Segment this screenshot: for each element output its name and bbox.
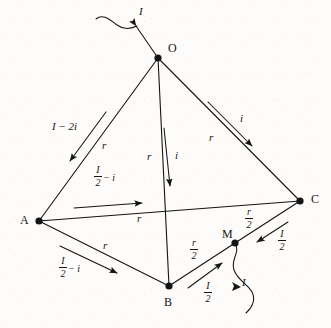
edge-MC-current-label: I 2 (278, 230, 286, 253)
node-C (296, 197, 303, 204)
node-A (35, 217, 42, 224)
fraction-denominator: 2 (191, 251, 198, 261)
node-label-B: B (164, 296, 172, 308)
edge-BM-current-label: I 2 (204, 282, 212, 305)
fraction-numerator: I (279, 229, 284, 239)
lead-out-current-label: I (242, 277, 246, 288)
current-arrow-AC (74, 203, 142, 208)
fraction-half-I-ab: I 2 (59, 256, 67, 279)
fraction-half-r-mc: r 2 (245, 207, 253, 230)
node-label-C: C (311, 193, 319, 205)
fraction-denominator: 2 (95, 178, 102, 188)
lead-arrow-in (136, 26, 158, 58)
fraction-numerator: I (95, 165, 100, 175)
edge-OB-current-label: i (175, 150, 178, 161)
edge-OA-resistance-label: r (102, 140, 106, 151)
fraction-numerator: I (60, 256, 65, 266)
edge-AC-resistance-label: r (137, 213, 141, 224)
fraction-denominator: 2 (60, 269, 67, 279)
node-label-O: O (168, 42, 177, 54)
edge-AC-current-label: I 2 − i (94, 166, 115, 189)
circuit-diagram-canvas (0, 0, 331, 328)
edge-BM-resistance-label: r 2 (190, 239, 198, 262)
fraction-numerator: r (191, 238, 197, 248)
fraction-tail: − i (68, 264, 80, 274)
fraction-denominator: 2 (205, 294, 212, 304)
edge-OA (39, 58, 158, 221)
node-O (154, 54, 161, 61)
fraction-numerator: I (205, 281, 210, 291)
edge-OC-current-label: i (240, 113, 243, 124)
lead-in-current-label: I (139, 6, 143, 17)
fraction-half-r-bm: r 2 (190, 238, 198, 261)
current-arrow-OC (208, 102, 252, 146)
fraction-half-I-ac: I 2 (94, 165, 102, 188)
lead-arrow-out-head (232, 282, 241, 291)
edge-OA-current-label: I − 2i (52, 121, 77, 132)
fraction-half-I-mc: I 2 (278, 229, 286, 252)
fraction-denominator: 2 (279, 242, 286, 252)
edge-OB-resistance-label: r (147, 151, 151, 162)
lead-wire-in (96, 17, 137, 29)
edge-OC (158, 58, 300, 201)
edge-MC-resistance-label: r 2 (245, 208, 253, 231)
edge-AB-current-label: I 2 − i (59, 257, 80, 280)
node-B (165, 282, 172, 289)
edge-AC (39, 201, 300, 221)
fraction-numerator: r (246, 207, 252, 217)
current-arrow-OB (164, 128, 170, 186)
fraction-half-I-bm: I 2 (204, 281, 212, 304)
edge-OB (158, 58, 169, 286)
fraction-tail: − i (103, 173, 115, 183)
edge-AB-resistance-label: r (103, 240, 107, 251)
node-label-A: A (20, 214, 29, 226)
edge-BM (169, 243, 235, 286)
fraction-denominator: 2 (246, 220, 253, 230)
node-label-M: M (222, 228, 233, 240)
edge-OC-resistance-label: r (209, 132, 213, 143)
